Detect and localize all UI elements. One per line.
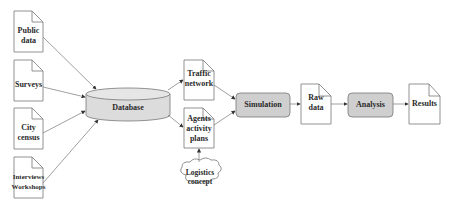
- label-database: Database: [86, 100, 170, 116]
- label-line: data: [21, 36, 36, 46]
- label-interviews-workshops: Interviews Workshops: [10, 166, 47, 198]
- label-line: Database: [112, 103, 144, 113]
- label-simulation: Simulation: [236, 93, 290, 117]
- label-traffic-network: Traffic network: [183, 64, 215, 94]
- label-results: Results: [408, 92, 441, 116]
- label-line: Simulation: [244, 100, 281, 110]
- label-line: census: [17, 133, 39, 143]
- label-line: Agents: [187, 114, 211, 124]
- label-line: City: [21, 123, 36, 133]
- label-line: Results: [412, 99, 437, 109]
- label-line: Surveys: [15, 80, 42, 90]
- label-surveys: Surveys: [12, 68, 45, 101]
- label-city-census: City census: [14, 117, 43, 149]
- label-line: Traffic: [187, 69, 210, 79]
- label-line: data: [308, 103, 323, 113]
- label-line: Workshops: [12, 182, 46, 192]
- label-line: network: [185, 79, 213, 89]
- label-line: activity: [186, 124, 211, 134]
- label-raw-data: Raw data: [301, 88, 331, 118]
- label-agents-activity-plans: Agents activity plans: [183, 112, 215, 146]
- label-line: plans: [190, 134, 208, 144]
- label-public-data: Public data: [14, 20, 43, 52]
- label-line: Logistics: [186, 168, 214, 177]
- label-line: concept: [188, 177, 213, 186]
- label-logistics-concept: Logistics concept: [180, 165, 220, 189]
- label-line: Interviews: [13, 172, 45, 182]
- label-line: Public: [18, 26, 40, 36]
- label-analysis: Analysis: [348, 93, 393, 117]
- label-line: Raw: [308, 93, 324, 103]
- label-line: Analysis: [356, 100, 385, 110]
